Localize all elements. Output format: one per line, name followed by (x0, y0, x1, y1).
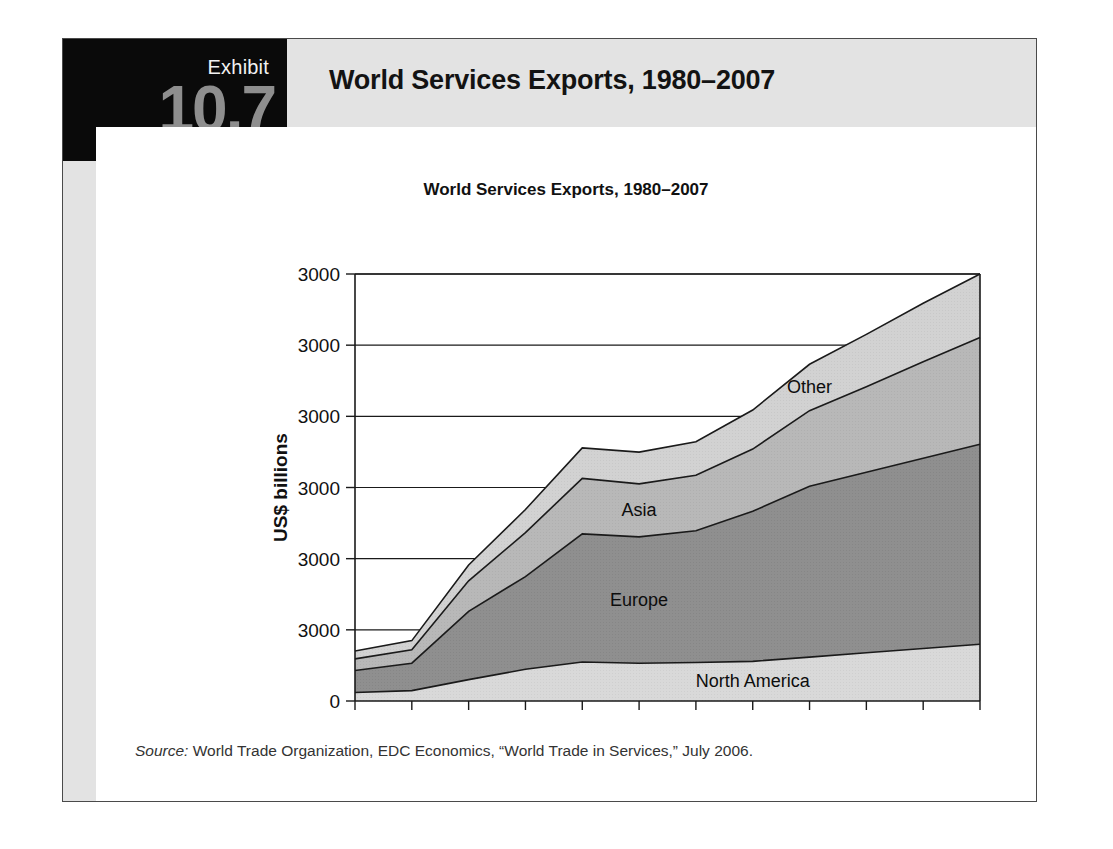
stacked-area-chart: 3000300030003000300030000 19801985199019… (96, 127, 1036, 713)
y-axis-title-text: US$ billions (270, 433, 291, 542)
y-tick-label: 0 (329, 691, 340, 712)
x-tick-label: 2001 (609, 712, 649, 713)
x-tick-label: 2007 (950, 712, 990, 713)
y-tick-label: 3000 (298, 549, 340, 570)
series-label-asia: Asia (622, 500, 658, 520)
exhibit-title: World Services Exports, 1980–2007 (329, 65, 775, 96)
x-axis-ticks: 1980198519901995200020012002200320042005… (325, 701, 990, 713)
exhibit-card: World Services Exports, 1980–2007 Exhibi… (62, 38, 1037, 802)
x-tick-label: 2003 (722, 712, 762, 713)
chart-region: World Services Exports, 1980–2007 (96, 127, 1036, 713)
series-label-north-america: North America (696, 671, 811, 691)
source-note: Source: World Trade Organization, EDC Ec… (135, 742, 753, 760)
y-axis-title: US$ billions (270, 433, 291, 542)
y-tick-label: 3000 (298, 620, 340, 641)
y-tick-label: 3000 (298, 264, 340, 285)
y-axis-ticks: 3000300030003000300030000 (298, 264, 355, 712)
y-tick-label: 3000 (298, 478, 340, 499)
x-tick-label: 1980 (325, 712, 365, 713)
x-tick-label: 2006 (893, 712, 933, 713)
y-tick-label: 3000 (298, 406, 340, 427)
x-tick-label: 1985 (381, 712, 421, 713)
chart-canvas: 3000300030003000300030000 19801985199019… (96, 127, 1036, 713)
x-tick-label: 2005 (836, 712, 876, 713)
source-text: World Trade Organization, EDC Economics,… (188, 742, 753, 759)
x-tick-label: 2002 (666, 712, 706, 713)
source-label: Source: (135, 742, 188, 759)
x-tick-label: 1995 (495, 712, 535, 713)
x-tick-label: 2000 (552, 712, 592, 713)
series-label-other: Other (787, 377, 832, 397)
x-tick-label: 1990 (438, 712, 478, 713)
x-tick-label: 2004 (779, 712, 819, 713)
series-label-europe: Europe (610, 590, 668, 610)
y-tick-label: 3000 (298, 335, 340, 356)
